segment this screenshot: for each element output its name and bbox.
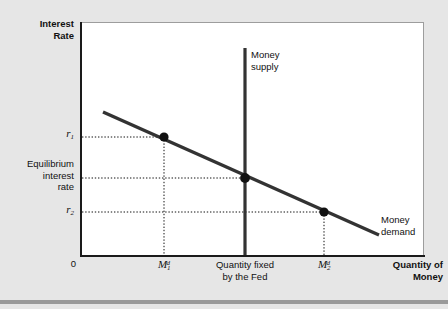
money-supply-label-line1: Money (251, 49, 321, 61)
x-tick-m1d-symbol: M (158, 258, 167, 270)
equilibrium-line1: Equilibrium (4, 158, 74, 170)
y-tick-r2-subscript: 2 (71, 209, 75, 217)
equilibrium-line3: rate (4, 181, 74, 193)
y-axis-title-line1: Interest (10, 18, 74, 30)
bottom-margin (0, 304, 448, 309)
x-axis-title-line2: Money (355, 271, 443, 283)
x-axis-title: Quantity of Money (355, 259, 443, 282)
x-tick-label-m1d: M1d (146, 258, 182, 274)
money-supply-label-line2: supply (251, 61, 321, 73)
money-supply-label: Money supply (251, 49, 321, 72)
x-tick-m1d-superscript: d (167, 259, 171, 267)
money-demand-label-line1: Money (381, 214, 447, 226)
quantity-fixed-line1: Quantity fixed (196, 259, 294, 271)
x-axis-title-line1: Quantity of (355, 259, 443, 271)
origin-label: 0 (62, 258, 76, 270)
y-axis-title-line2: Rate (10, 30, 74, 42)
equilibrium-line2: interest (4, 170, 74, 182)
point-equilibrium (240, 173, 250, 183)
money-market-diagram: Interest Rate r1 Equilibrium interest ra… (0, 0, 448, 309)
quantity-fixed-line2: by the Fed (196, 271, 294, 283)
y-axis-title: Interest Rate (10, 18, 74, 41)
x-tick-m2d-symbol: M (318, 258, 327, 270)
x-tick-label-m2d: M2d (306, 258, 342, 274)
x-tick-m2d-superscript: d (327, 259, 331, 267)
y-tick-label-r2: r2 (44, 204, 74, 219)
money-demand-label: Money demand (381, 214, 447, 237)
y-tick-label-equilibrium: Equilibrium interest rate (4, 158, 74, 193)
guide-lines-r2 (82, 212, 324, 255)
guide-lines-r1 (82, 137, 164, 255)
money-demand-curve (103, 112, 379, 235)
x-tick-label-quantity-fixed: Quantity fixed by the Fed (196, 259, 294, 282)
point-r2-m2d (319, 207, 328, 216)
y-tick-r1-subscript: 1 (71, 133, 75, 141)
point-r1-m1d (159, 132, 168, 141)
y-tick-label-r1: r1 (44, 128, 74, 143)
money-demand-label-line2: demand (381, 226, 447, 238)
